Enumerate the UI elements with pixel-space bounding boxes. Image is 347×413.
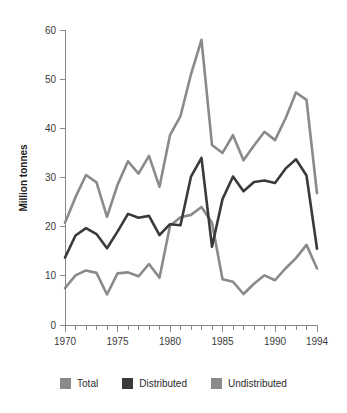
x-axis: 197019751980198519901994 [54,325,329,347]
line-chart-figure: 0102030405060 197019751980198519901994 M… [0,0,347,413]
x-tick-label: 1970 [54,336,77,347]
series-line-undistributed [65,207,317,295]
x-tick-label: 1980 [159,336,182,347]
y-tick-label: 40 [45,123,57,134]
y-tick-label: 50 [45,74,57,85]
chart-plot-area: 0102030405060 197019751980198519901994 M… [0,0,347,413]
y-tick-label: 30 [45,172,57,183]
y-axis-title: Million tonnes [18,144,29,212]
y-axis: 0102030405060 [45,25,65,331]
x-tick-label: 1994 [306,336,329,347]
legend-item-undistributed[interactable]: Undistributed [211,378,287,389]
y-tick-label: 20 [45,221,57,232]
chart-legend: TotalDistributedUndistributed [0,372,347,394]
legend-swatch-icon [60,378,71,389]
x-tick-label: 1975 [106,336,129,347]
legend-swatch-icon [122,378,133,389]
x-tick-label: 1985 [211,336,234,347]
legend-swatch-icon [211,378,222,389]
y-tick-label: 0 [50,320,56,331]
series-line-total [65,40,317,223]
legend-item-distributed[interactable]: Distributed [122,378,187,389]
series-lines [65,40,317,295]
legend-label: Distributed [139,378,187,389]
legend-label: Undistributed [228,378,287,389]
legend-label: Total [77,378,98,389]
x-tick-label: 1990 [264,336,287,347]
y-tick-label: 10 [45,270,57,281]
series-line-distributed [65,158,317,258]
legend-item-total[interactable]: Total [60,378,98,389]
y-tick-label: 60 [45,25,57,36]
